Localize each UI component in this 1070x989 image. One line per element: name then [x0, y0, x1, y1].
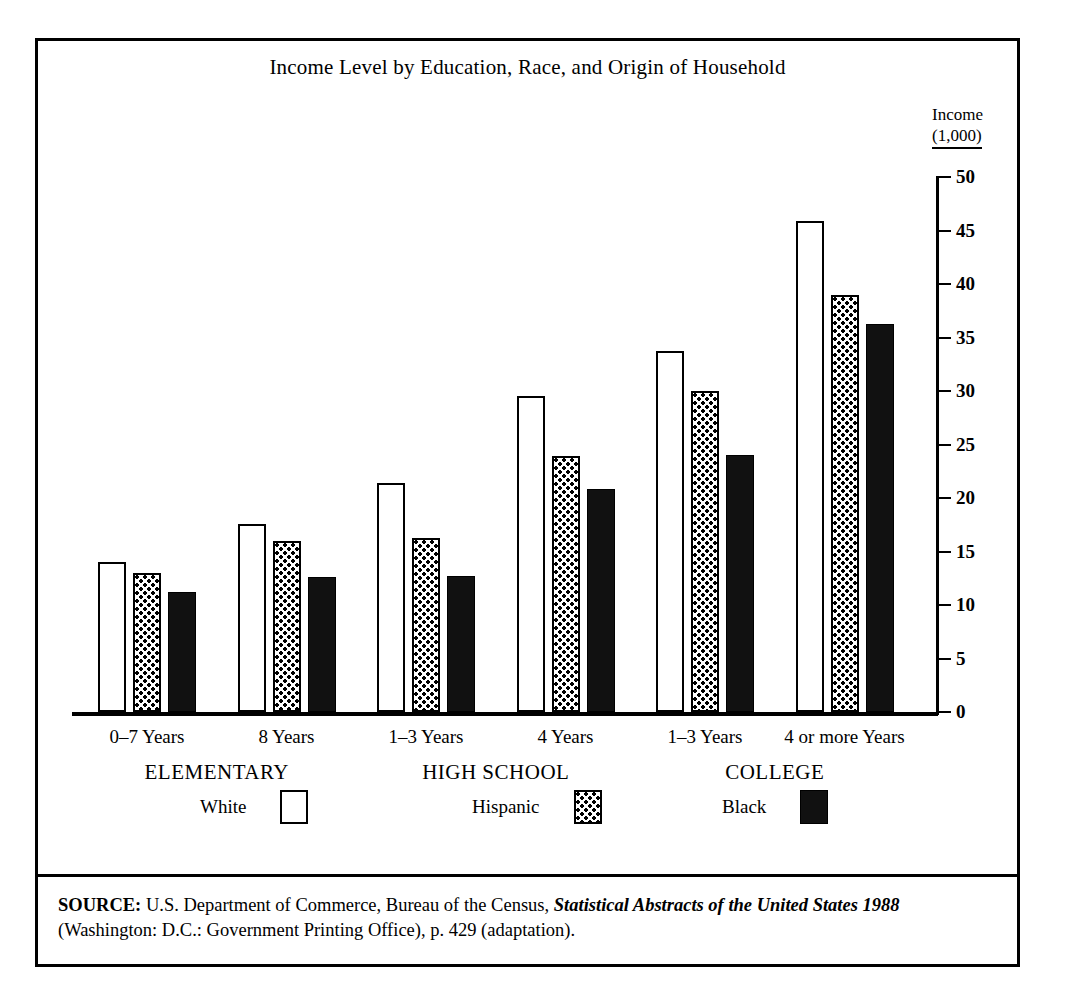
- y-tick-45: [936, 230, 951, 232]
- y-tick-15: [936, 551, 951, 553]
- legend-item-black: Black: [722, 790, 828, 824]
- bar-black-1: [308, 577, 336, 712]
- source-year: 1988: [863, 895, 900, 915]
- legend-swatch-hispanic: [574, 790, 602, 824]
- y-tick-40: [936, 283, 951, 285]
- x-axis-line: [72, 712, 938, 716]
- y-tick-label-25: 25: [956, 434, 975, 456]
- bar-black-2: [447, 576, 475, 712]
- bar-white-1: [238, 524, 266, 712]
- x-category-label-elementary: ELEMENTARY: [145, 760, 289, 785]
- bar-hispanic-0: [133, 573, 161, 712]
- source-prefix: SOURCE:: [58, 895, 141, 915]
- bar-black-0: [168, 592, 196, 712]
- legend-label-black: Black: [722, 796, 766, 818]
- y-axis-line: [936, 177, 939, 715]
- bar-white-5: [796, 221, 824, 712]
- y-tick-10: [936, 604, 951, 606]
- bar-black-5: [866, 324, 894, 712]
- source-divider: [35, 874, 1020, 877]
- y-axis-caption: Income (1,000): [932, 104, 1022, 149]
- bar-hispanic-4: [691, 391, 719, 712]
- chart-legend: WhiteHispanicBlack: [72, 790, 952, 834]
- y-tick-label-20: 20: [956, 487, 975, 509]
- bar-hispanic-2: [412, 538, 440, 712]
- x-group-label-0: 0–7 Years: [110, 726, 185, 748]
- x-group-label-2: 1–3 Years: [389, 726, 464, 748]
- y-tick-25: [936, 444, 951, 446]
- y-tick-label-30: 30: [956, 380, 975, 402]
- y-tick-label-5: 5: [956, 648, 966, 670]
- y-tick-label-0: 0: [956, 701, 966, 723]
- y-tick-label-35: 35: [956, 327, 975, 349]
- legend-item-hispanic: Hispanic: [472, 790, 602, 824]
- plot-area: 05101520253035404550 0–7 Years8 Years1–3…: [72, 170, 952, 722]
- x-category-label-high-school: HIGH SCHOOL: [422, 760, 569, 785]
- y-tick-20: [936, 497, 951, 499]
- y-axis-caption-line1: Income: [932, 104, 1022, 125]
- y-tick-label-45: 45: [956, 220, 975, 242]
- bar-white-2: [377, 483, 405, 712]
- y-tick-label-50: 50: [956, 166, 975, 188]
- x-group-label-4: 1–3 Years: [668, 726, 743, 748]
- bar-white-3: [517, 396, 545, 712]
- x-category-label-college: COLLEGE: [725, 760, 824, 785]
- figure-page: Income Level by Education, Race, and Ori…: [0, 0, 1070, 989]
- source-title-italic: Statistical Abstracts of the United Stat…: [554, 895, 858, 915]
- source-text-2: (Washington: D.C.: Government Printing O…: [58, 920, 575, 940]
- y-tick-35: [936, 337, 951, 339]
- y-tick-label-15: 15: [956, 541, 975, 563]
- y-tick-label-40: 40: [956, 273, 975, 295]
- bar-black-3: [587, 489, 615, 712]
- x-group-label-1: 8 Years: [259, 726, 315, 748]
- bar-black-4: [726, 455, 754, 712]
- bar-hispanic-5: [831, 295, 859, 712]
- source-text-1: U.S. Department of Commerce, Bureau of t…: [141, 895, 554, 915]
- x-group-label-5: 4 or more Years: [784, 726, 904, 748]
- bar-hispanic-1: [273, 541, 301, 712]
- y-axis-caption-line2: (1,000): [932, 125, 982, 149]
- bar-white-4: [656, 351, 684, 712]
- legend-label-hispanic: Hispanic: [472, 796, 540, 818]
- source-note: SOURCE: U.S. Department of Commerce, Bur…: [58, 893, 1003, 943]
- x-group-label-3: 4 Years: [538, 726, 594, 748]
- bar-white-0: [98, 562, 126, 712]
- y-tick-0: [936, 711, 951, 713]
- y-tick-5: [936, 658, 951, 660]
- y-tick-30: [936, 390, 951, 392]
- legend-swatch-white: [280, 790, 308, 824]
- y-tick-50: [936, 176, 951, 178]
- legend-label-white: White: [200, 796, 246, 818]
- bar-hispanic-3: [552, 456, 580, 712]
- legend-item-white: White: [200, 790, 308, 824]
- legend-swatch-black: [800, 790, 828, 824]
- y-tick-label-10: 10: [956, 594, 975, 616]
- chart-title: Income Level by Education, Race, and Ori…: [35, 55, 1020, 80]
